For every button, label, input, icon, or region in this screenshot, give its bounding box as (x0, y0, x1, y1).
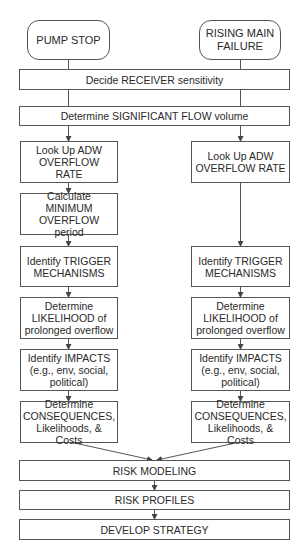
node-right-likelihood: Determine LIKELIHOOD of prolonged overfl… (191, 297, 290, 339)
node-right-trigger-mechanisms-label: Identify TRIGGER MECHANISMS (198, 255, 282, 279)
node-left-impacts: Identify IMPACTS (e.g., env, social, pol… (20, 349, 118, 391)
node-left-impacts-label: Identify IMPACTS (e.g., env, social, pol… (28, 352, 111, 388)
node-decide-receiver-sensitivity: Decide RECEIVER sensitivity (19, 69, 290, 90)
node-rising-main-failure: RISING MAIN FAILURE (199, 20, 281, 60)
node-right-consequences-label: Determine CONSEQUENCES, Likelihoods, & C… (194, 398, 286, 446)
node-risk-profiles: RISK PROFILES (19, 490, 290, 510)
node-develop-strategy-label: DEVELOP STRATEGY (100, 524, 208, 536)
node-significant-flow-volume: Determine SIGNIFICANT FLOW volume (19, 106, 290, 126)
node-right-impacts-label: Identify IMPACTS (e.g., env, social, pol… (199, 352, 282, 388)
node-left-minimum-overflow-period-label: Calculate MINIMUM OVERFLOW period (24, 190, 114, 238)
node-develop-strategy: DEVELOP STRATEGY (19, 519, 290, 540)
node-right-trigger-mechanisms: Identify TRIGGER MECHANISMS (191, 246, 290, 287)
node-pump-stop: PUMP STOP (27, 20, 110, 60)
node-left-trigger-mechanisms-label: Identify TRIGGER MECHANISMS (27, 255, 111, 279)
node-rising-main-failure-label: RISING MAIN FAILURE (206, 27, 274, 53)
node-risk-profiles-label: RISK PROFILES (115, 494, 194, 506)
node-left-likelihood-label: Determine LIKELIHOOD of prolonged overfl… (25, 300, 114, 336)
node-left-consequences: Determine CONSEQUENCES, Likelihoods, & C… (20, 401, 118, 443)
node-left-adw-overflow-rate-label: Look Up ADW OVERFLOW RATE (24, 144, 114, 180)
node-right-impacts: Identify IMPACTS (e.g., env, social, pol… (191, 349, 290, 391)
node-right-consequences: Determine CONSEQUENCES, Likelihoods, & C… (191, 401, 290, 443)
node-risk-modeling: RISK MODELING (19, 460, 290, 481)
node-left-likelihood: Determine LIKELIHOOD of prolonged overfl… (20, 297, 118, 339)
node-significant-flow-volume-label: Determine SIGNIFICANT FLOW volume (61, 110, 249, 122)
node-decide-receiver-sensitivity-label: Decide RECEIVER sensitivity (86, 74, 224, 86)
node-left-consequences-label: Determine CONSEQUENCES, Likelihoods, & C… (23, 398, 115, 446)
node-left-adw-overflow-rate: Look Up ADW OVERFLOW RATE (20, 141, 118, 183)
node-left-minimum-overflow-period: Calculate MINIMUM OVERFLOW period (20, 193, 118, 235)
node-left-trigger-mechanisms: Identify TRIGGER MECHANISMS (20, 246, 118, 287)
node-right-adw-overflow-rate-label: Look Up ADW OVERFLOW RATE (195, 150, 285, 174)
flowchart: PUMP STOP RISING MAIN FAILURE Decide REC… (0, 0, 308, 557)
node-risk-modeling-label: RISK MODELING (113, 465, 196, 477)
node-right-adw-overflow-rate: Look Up ADW OVERFLOW RATE (191, 141, 290, 183)
node-right-likelihood-label: Determine LIKELIHOOD of prolonged overfl… (196, 300, 285, 336)
node-pump-stop-label: PUMP STOP (36, 34, 100, 47)
